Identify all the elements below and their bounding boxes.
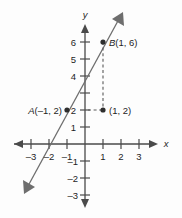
x-axis-left-arrowhead [14, 140, 23, 148]
y-tick-label-1: 1 [71, 122, 76, 133]
point-b-label: B(1, 6) [109, 37, 138, 48]
x-tick-label-2: 2 [118, 151, 123, 162]
y-axis-top-arrowhead [81, 24, 89, 33]
point-a-label-letter: A [27, 105, 34, 116]
coordinate-graph: 6 5 4 2 1 –1 –2 –3 –3 –2 –1 1 2 3 x y A(… [0, 0, 182, 218]
point-c-marker [100, 107, 105, 112]
y-axis-bottom-arrowhead [81, 199, 89, 208]
point-a-marker [64, 107, 69, 112]
graph-svg: 6 5 4 2 1 –1 –2 –3 –3 –2 –1 1 2 3 x y A(… [0, 0, 182, 218]
x-tick-label-neg3: –3 [26, 151, 37, 162]
point-b-marker [100, 39, 105, 44]
y-axis-label: y [82, 9, 89, 20]
x-tick-label-neg1: –1 [62, 151, 73, 162]
y-tick-label-6: 6 [71, 37, 76, 48]
x-axis-label: x [163, 138, 170, 149]
line-lower-arrowhead [23, 180, 35, 194]
y-tick-label-neg3: –3 [67, 190, 78, 201]
y-tick-label-5: 5 [71, 54, 76, 65]
x-tick-label-neg2: –2 [44, 151, 55, 162]
point-b-label-coords: (1, 6) [115, 37, 137, 48]
point-a-label: A(–1, 2) [27, 105, 62, 116]
line-upper-arrowhead [112, 12, 124, 26]
point-c-label: (1, 2) [109, 105, 131, 116]
point-a-label-coords: (–1, 2) [35, 105, 62, 116]
y-tick-label-2: 2 [71, 105, 76, 116]
x-tick-label-3: 3 [136, 151, 141, 162]
y-tick-label-neg2: –2 [67, 173, 78, 184]
x-axis-right-arrowhead [149, 140, 158, 148]
x-tick-label-1: 1 [100, 151, 105, 162]
y-tick-label-4: 4 [71, 71, 76, 82]
